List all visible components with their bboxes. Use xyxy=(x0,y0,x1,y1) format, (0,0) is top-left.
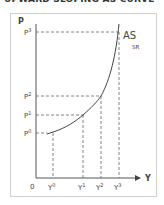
svg-text:Y0: Y0 xyxy=(47,182,55,192)
price-tick-labels: P3 P2 P1 P0 xyxy=(24,27,31,138)
svg-text:Y2: Y2 xyxy=(95,182,103,192)
origin-label: 0 xyxy=(30,183,34,191)
svg-text:P0: P0 xyxy=(24,128,31,138)
as-label: AS xyxy=(123,30,136,41)
as-curve-diagram: P Y 0 AS SR P3 P2 P1 P0 Y0 Y1 Y2 Y3 xyxy=(0,0,164,205)
y-axis-label: P xyxy=(18,17,24,26)
svg-text:Y3: Y3 xyxy=(113,182,121,192)
svg-text:P1: P1 xyxy=(24,110,31,120)
price-guides xyxy=(36,32,119,133)
output-guides xyxy=(53,32,119,178)
svg-text:P2: P2 xyxy=(24,91,31,101)
svg-text:P3: P3 xyxy=(24,27,31,37)
output-tick-labels: Y0 Y1 Y2 Y3 xyxy=(47,182,121,192)
sr-label: SR xyxy=(132,44,139,50)
x-axis-label: Y xyxy=(144,174,151,183)
svg-text:Y1: Y1 xyxy=(77,182,85,192)
